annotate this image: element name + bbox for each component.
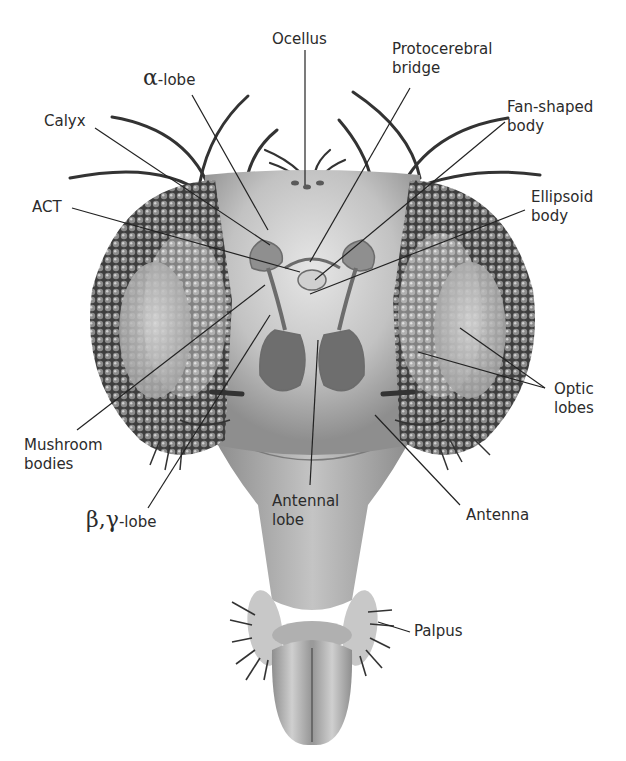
label-beta-gamma-lobe: β,γ-lobe — [86, 510, 156, 532]
label-antennal-lobe-line2: lobe — [272, 511, 339, 530]
beta-gamma-lobe-text: -lobe — [119, 513, 157, 531]
label-optic-lobes-line1: Optic — [554, 380, 594, 399]
label-calyx: Calyx — [44, 112, 86, 131]
alpha-lobe-text: -lobe — [158, 71, 196, 89]
label-optic-lobes: Optic lobes — [554, 380, 594, 418]
label-antenna: Antenna — [466, 506, 529, 525]
label-mushroom-bodies: Mushroom bodies — [24, 436, 103, 474]
compound-eye-right — [393, 180, 535, 455]
label-fan-shaped-body: Fan-shaped body — [507, 98, 593, 136]
label-alpha-lobe: α-lobe — [143, 68, 195, 90]
beta-gamma-symbol: β,γ — [86, 507, 119, 532]
label-fan-shaped-body-line1: Fan-shaped — [507, 98, 593, 117]
label-fan-shaped-body-line2: body — [507, 117, 593, 136]
label-protocerebral-bridge: Protocerebral bridge — [392, 40, 492, 78]
label-antennal-lobe-line1: Antennal — [272, 492, 339, 511]
label-ellipsoid-body-line2: body — [531, 207, 593, 226]
label-protocerebral-bridge-line2: bridge — [392, 59, 492, 78]
label-mushroom-bodies-line2: bodies — [24, 455, 103, 474]
label-ocellus: Ocellus — [272, 30, 327, 49]
label-protocerebral-bridge-line1: Protocerebral — [392, 40, 492, 59]
alpha-symbol: α — [143, 65, 158, 90]
label-mushroom-bodies-line1: Mushroom — [24, 436, 103, 455]
label-palpus: Palpus — [414, 622, 463, 641]
label-act: ACT — [32, 198, 62, 217]
label-ellipsoid-body-line1: Ellipsoid — [531, 188, 593, 207]
label-ellipsoid-body: Ellipsoid body — [531, 188, 593, 226]
compound-eye-left — [90, 180, 232, 455]
label-optic-lobes-line2: lobes — [554, 399, 594, 418]
label-antennal-lobe: Antennal lobe — [272, 492, 339, 530]
